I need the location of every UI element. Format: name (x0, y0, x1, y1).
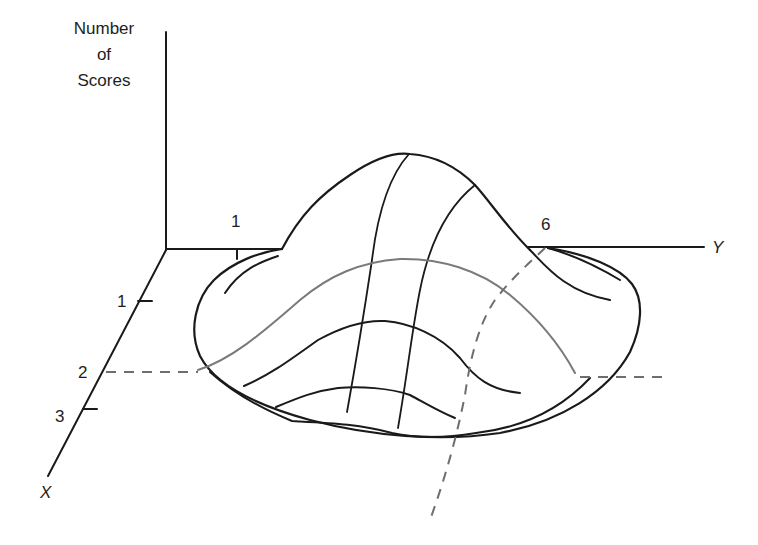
x-tick-label-3: 3 (55, 408, 64, 425)
meridian-curve-1 (347, 154, 409, 412)
vertical-axis-title-line-1: Number (44, 16, 164, 42)
y-tick-label-1: 1 (231, 213, 240, 230)
inner-rim (210, 372, 590, 437)
y-axis-label: Y (712, 239, 723, 256)
x-tick-label-1: 1 (117, 293, 126, 310)
surface-silhouette (282, 154, 530, 250)
vertical-axis-title-line-2: of (44, 42, 164, 68)
y-tick-label-6: 6 (541, 216, 550, 233)
vertical-axis-title-line-3: Scores (44, 68, 164, 94)
x-axis (48, 250, 166, 476)
x-axis-label: X (40, 484, 51, 501)
meridian-curve-2 (398, 185, 475, 428)
contour-curve-front (276, 387, 455, 418)
x-tick-label-2: 2 (78, 364, 87, 381)
bivariate-surface-figure: Number of Scores 1 6 Y 1 2 3 X (0, 0, 758, 545)
left-flap-curve (225, 256, 278, 293)
outer-rim (194, 248, 640, 437)
right-flap-edge (548, 248, 620, 280)
right-flap-curve (530, 250, 610, 300)
vertical-axis-title: Number of Scores (44, 16, 164, 94)
gray-contour-x2 (198, 259, 575, 373)
